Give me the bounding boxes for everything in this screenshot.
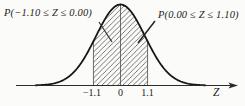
normal-distribution-figure: P(−1.10 ≤ Z ≤ 0.00) P(0.00 ≤ Z ≤ 1.10) −… <box>0 0 245 106</box>
tick-label-neg-1-1: −1.1 <box>83 88 101 98</box>
tick-label-1-1: 1.1 <box>141 88 154 98</box>
right-probability-label: P(0.00 ≤ Z ≤ 1.10) <box>158 10 239 21</box>
axis-label-z: Z <box>213 87 219 99</box>
left-probability-label: P(−1.10 ≤ Z ≤ 0.00) <box>4 8 92 19</box>
tick-label-0: 0 <box>118 88 123 98</box>
